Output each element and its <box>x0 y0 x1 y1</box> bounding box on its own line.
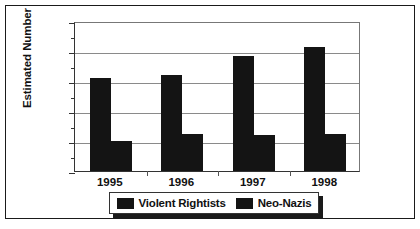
legend-entry: Neo-Nazis <box>236 197 312 209</box>
y-axis-title: Estimated Number <box>21 0 33 133</box>
bar-series-layer <box>75 23 359 171</box>
legend-swatch-icon <box>117 198 134 209</box>
x-tick-label: 1997 <box>218 176 288 188</box>
bar <box>254 135 275 171</box>
bar <box>161 75 182 171</box>
chart-legend: Violent RightistsNeo-Nazis <box>109 192 319 214</box>
bar <box>90 78 111 171</box>
bar <box>182 134 203 171</box>
bar <box>233 56 254 172</box>
legend-label: Violent Rightists <box>139 197 226 209</box>
bar <box>325 134 346 172</box>
x-tick-label: 1996 <box>146 176 216 188</box>
chart-figure: Estimated Number 0200040006000800010000 … <box>0 0 420 229</box>
legend-swatch-icon <box>236 198 253 209</box>
bar-group <box>233 23 275 171</box>
legend-entry: Violent Rightists <box>117 197 226 209</box>
bar-group <box>90 23 132 171</box>
bar <box>111 141 132 171</box>
x-tick-label: 1995 <box>75 176 145 188</box>
bar-group <box>304 23 346 171</box>
y-tick-major <box>69 173 75 174</box>
bar-group <box>161 23 203 171</box>
plot-area <box>74 22 360 172</box>
legend-label: Neo-Nazis <box>258 197 312 209</box>
bar <box>304 47 325 172</box>
x-tick-label: 1998 <box>289 176 359 188</box>
